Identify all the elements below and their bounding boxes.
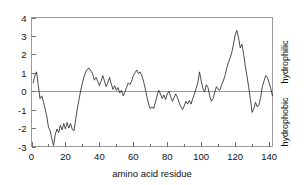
x-tick-label: 80: [162, 151, 173, 162]
x-tick-label: 40: [94, 151, 105, 162]
y-tick-label: 4: [21, 13, 26, 24]
y-tick-label: 3: [21, 31, 26, 42]
hydrophilic-label: hydrophilic: [280, 40, 290, 84]
plot-frame: [32, 18, 273, 147]
x-tick-label: 100: [193, 151, 209, 162]
y-tick-label: 2: [21, 49, 26, 60]
y-tick-label: -2: [18, 123, 26, 134]
data-series-group: [33, 30, 272, 145]
y-tick-label: 1: [21, 68, 26, 79]
x-tick-label: 60: [128, 151, 139, 162]
x-axis-ticks: [33, 142, 270, 147]
y-tick-label: -1: [18, 105, 26, 116]
y-tick-label: 0: [21, 86, 26, 97]
y-axis-tick-labels: -3-2-101234: [18, 13, 26, 153]
x-tick-label: 0: [29, 151, 34, 162]
y-tick-label: -3: [18, 142, 26, 153]
x-axis-title: amino acid residue: [112, 168, 192, 179]
hydrophobic-label: hydrophobic: [280, 97, 290, 147]
x-tick-label: 120: [227, 151, 243, 162]
x-tick-label: 140: [261, 151, 277, 162]
hydropathy-chart: -3-2-101234 020406080100120140 amino aci…: [0, 0, 307, 185]
x-axis-tick-labels: 020406080100120140: [29, 151, 277, 162]
hydropathy-line: [33, 30, 272, 145]
x-tick-label: 20: [60, 151, 71, 162]
chart-canvas: -3-2-101234 020406080100120140 amino aci…: [0, 0, 307, 185]
